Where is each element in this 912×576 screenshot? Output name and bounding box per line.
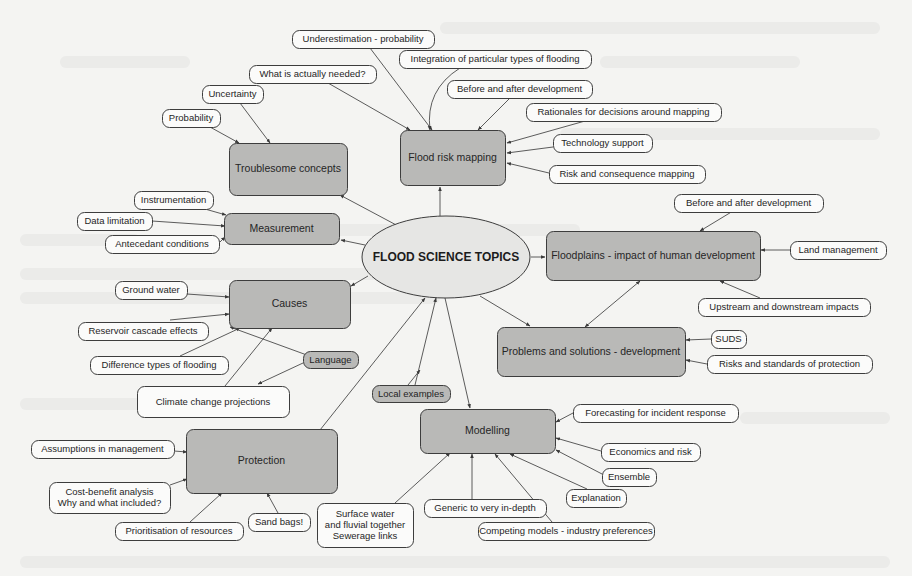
- subtopic-node-landmanagement: Land management: [791, 242, 887, 260]
- subtopic-node-antecedent: Antecedant conditions: [106, 236, 220, 254]
- node-label: Land management: [798, 244, 878, 255]
- topic-node-floodplains: Floodplains - impact of human developmen…: [547, 232, 761, 281]
- node-label: Uncertainty: [208, 88, 256, 99]
- node-label: Why and what included?: [58, 497, 162, 508]
- subtopic-node-sandbags: Sand bags!: [249, 514, 311, 532]
- node-label: and fluvial together: [325, 519, 405, 530]
- connector-arrow: [507, 147, 553, 153]
- node-label: Before and after development: [457, 83, 583, 94]
- subtopic-node-upstream: Upstream and downstream impacts: [699, 299, 871, 317]
- topic-node-measurement: Measurement: [225, 214, 340, 245]
- subtopic-node-datalimitation: Data limitation: [78, 213, 153, 231]
- node-label: FLOOD SCIENCE TOPICS: [373, 250, 519, 264]
- node-label: Explanation: [571, 492, 621, 503]
- subtopic-node-risksstandards: Risks and standards of protection: [708, 356, 873, 374]
- node-label: Prioritisation of resources: [125, 525, 232, 536]
- topic-node-causes: Causes: [230, 281, 351, 329]
- connector-arrow: [187, 294, 229, 297]
- subtopic-node-climate: Climate change projections: [138, 387, 290, 418]
- connector-arrow: [478, 98, 510, 130]
- subtopic-node-forecasting: Forecasting for incident response: [574, 405, 739, 423]
- node-label: Causes: [272, 297, 308, 309]
- tag-node-local: Local examples: [373, 386, 451, 403]
- subtopic-node-prioritisation: Prioritisation of resources: [116, 523, 244, 541]
- connector-arrow: [341, 240, 365, 245]
- connector-arrow: [340, 195, 400, 227]
- connector-arrow: [267, 493, 278, 513]
- topic-node-problems: Problems and solutions - development: [498, 328, 686, 377]
- node-label: Rationales for decisions around mapping: [537, 106, 709, 117]
- connector-arrow: [395, 453, 450, 503]
- node-label: Data limitation: [84, 215, 144, 226]
- node-label: Probability: [169, 112, 214, 123]
- node-label: Sand bags!: [255, 516, 303, 527]
- subtopic-node-economics: Economics and risk: [602, 444, 701, 462]
- flood-science-mind-map: Troublesome conceptsMeasurementCausesPro…: [0, 0, 912, 576]
- subtopic-node-probability: Probability: [163, 110, 221, 128]
- node-label: Problems and solutions - development: [502, 345, 681, 357]
- node-label: Risks and standards of protection: [719, 358, 860, 369]
- node-label: Integration of particular types of flood…: [411, 53, 580, 64]
- connector-arrow: [190, 493, 222, 522]
- node-label: Protection: [238, 454, 285, 466]
- subtopic-node-riskconseq: Risk and consequence mapping: [550, 166, 706, 184]
- connector-arrow: [686, 339, 711, 340]
- subtopic-node-technology: Technology support: [554, 135, 653, 153]
- topic-node-protection: Protection: [187, 430, 338, 494]
- connector-arrow: [240, 103, 270, 143]
- subtopic-node-ensemble: Ensemble: [603, 469, 657, 487]
- subtopic-node-surfacewater: Surface waterand fluvial togetherSewerag…: [318, 504, 414, 548]
- connector-arrow: [351, 276, 368, 286]
- topic-node-troublesome: Troublesome concepts: [230, 144, 348, 196]
- node-label: Economics and risk: [609, 446, 692, 457]
- subtopic-node-difference: Difference types of flooding: [91, 357, 229, 375]
- node-label: Risk and consequence mapping: [559, 168, 694, 179]
- subtopic-node-whatneeded: What is actually needed?: [250, 66, 377, 84]
- node-label: Floodplains - impact of human developmen…: [551, 249, 755, 261]
- node-label: Modelling: [465, 424, 510, 436]
- node-label: Measurement: [249, 222, 313, 234]
- connector-arrow: [720, 281, 760, 298]
- subtopic-node-groundwater: Ground water: [116, 282, 188, 300]
- node-label: Forecasting for incident response: [585, 407, 725, 418]
- topic-node-modelling: Modelling: [421, 410, 556, 454]
- node-label: Generic to very in-depth: [434, 502, 535, 513]
- node-label: SUDS: [715, 333, 741, 344]
- connector-arrow: [700, 211, 733, 231]
- node-label: Climate change projections: [156, 396, 271, 407]
- subtopic-node-underestimation: Underestimation - probability: [293, 31, 435, 49]
- connector-arrow: [556, 450, 602, 474]
- node-label: Instrumentation: [141, 194, 206, 205]
- tag-node-language: Language: [304, 352, 359, 369]
- node-label: Technology support: [561, 137, 644, 148]
- topic-node-mapping: Flood risk mapping: [401, 131, 506, 186]
- connector-arrow: [585, 281, 640, 327]
- node-label: Ensemble: [608, 471, 650, 482]
- connector-arrow: [225, 328, 272, 386]
- node-label: Competing models - industry preferences: [479, 525, 653, 536]
- subtopic-node-costbenefit: Cost-benefit analysisWhy and what includ…: [50, 483, 171, 514]
- connector-arrow: [480, 296, 530, 326]
- subtopic-node-beforeafter2: Before and after development: [675, 195, 824, 213]
- node-layer: Troublesome conceptsMeasurementCausesPro…: [32, 31, 887, 548]
- subtopic-node-instrumentation: Instrumentation: [135, 192, 214, 210]
- node-label: Troublesome concepts: [235, 162, 341, 174]
- central-topic-node: FLOOD SCIENCE TOPICS: [362, 216, 530, 298]
- connector-arrow: [556, 413, 573, 422]
- connector-arrow: [152, 221, 225, 226]
- connector-arrow: [408, 370, 420, 385]
- subtopic-node-assumptions: Assumptions in management: [32, 441, 175, 459]
- node-label: Difference types of flooding: [102, 359, 217, 370]
- connector-arrow: [510, 454, 587, 489]
- connector-arrow: [230, 327, 315, 358]
- connector-arrow: [556, 438, 601, 451]
- connector-arrow: [170, 314, 229, 320]
- subtopic-node-generic: Generic to very in-depth: [425, 500, 547, 518]
- node-label: Ground water: [122, 284, 180, 295]
- subtopic-node-reservoir: Reservoir cascade effects: [79, 323, 209, 341]
- subtopic-node-rationales: Rationales for decisions around mapping: [527, 104, 722, 122]
- subtopic-node-beforeafter1: Before and after development: [448, 81, 593, 99]
- connector-arrow: [258, 363, 303, 384]
- subtopic-node-competing: Competing models - industry preferences: [479, 523, 655, 541]
- connector-arrow: [205, 209, 226, 215]
